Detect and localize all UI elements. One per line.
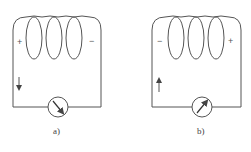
circuit-a: + − a) [13,16,101,136]
left-polarity-sign-b: − [157,36,162,46]
coil-loop-b-3 [208,17,224,59]
coil-loop-a-2 [46,17,62,59]
right-polarity-sign-b: + [228,36,233,46]
left-polarity-sign-a: + [17,37,22,47]
caption-b: b) [197,126,205,136]
coil-loop-b-1 [168,17,184,59]
caption-a: a) [53,126,60,136]
coil-loop-a-3 [66,17,82,59]
coil-loop-b-2 [188,17,204,59]
coil-loop-a-1 [26,17,42,59]
induction-diagrams: + − a) − + b) [0,0,251,152]
coil-wire-b [152,16,241,107]
galvanometer-b [192,97,212,117]
circuit-b: − + b) [152,16,241,136]
right-polarity-sign-a: − [89,36,94,46]
galvanometer-a [48,97,68,117]
